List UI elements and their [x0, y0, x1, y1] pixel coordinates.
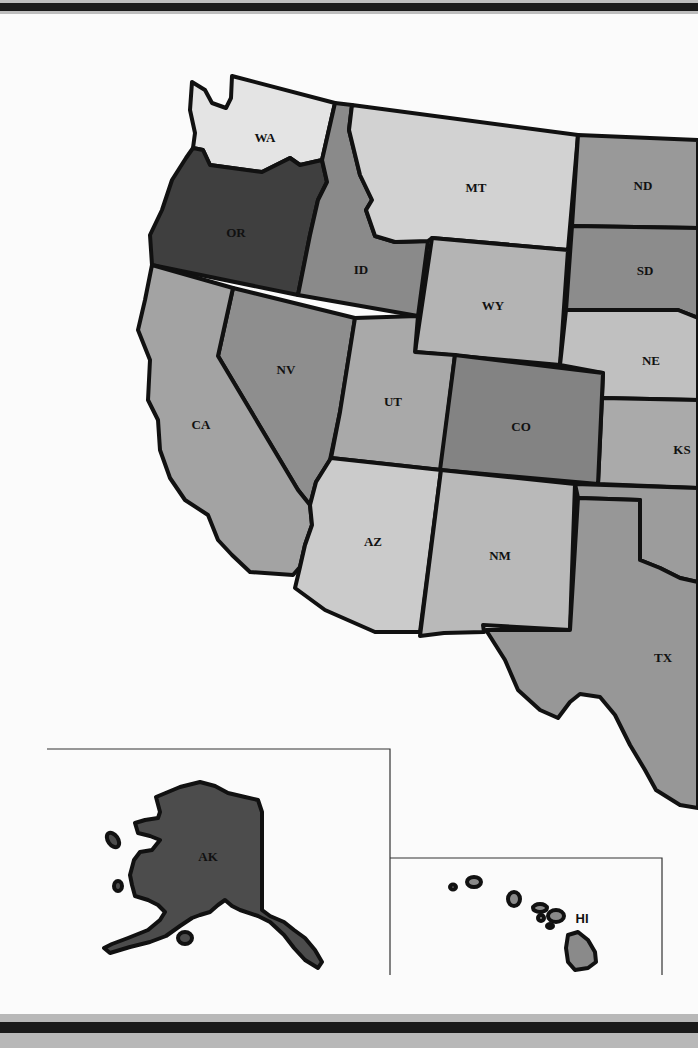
state-wa[interactable] — [190, 76, 335, 172]
label-nv: NV — [277, 362, 296, 377]
label-ak: AK — [198, 849, 218, 864]
state-hi[interactable] — [450, 877, 596, 970]
label-mt: MT — [466, 180, 487, 195]
label-nd: ND — [634, 178, 653, 193]
state-mt[interactable] — [349, 105, 578, 250]
label-wa: WA — [255, 130, 277, 145]
label-co: CO — [511, 419, 531, 434]
hawaii-inset-frame — [390, 858, 662, 975]
label-nm: NM — [489, 548, 511, 563]
label-ca: CA — [192, 417, 211, 432]
label-ks: KS — [673, 442, 690, 457]
label-hi: HI — [576, 911, 589, 926]
label-wy: WY — [482, 298, 505, 313]
label-sd: SD — [637, 263, 654, 278]
label-az: AZ — [364, 534, 382, 549]
bottom-border-bar — [0, 1022, 698, 1033]
label-ne: NE — [642, 353, 660, 368]
western-us-map: WA OR ID MT ND SD WY NE NV UT CO KS CA A… — [0, 0, 698, 1048]
label-id: ID — [354, 262, 368, 277]
state-sd[interactable] — [566, 226, 698, 318]
label-tx: TX — [654, 650, 673, 665]
label-or: OR — [226, 225, 246, 240]
state-ak[interactable] — [104, 782, 322, 968]
label-ut: UT — [384, 394, 402, 409]
